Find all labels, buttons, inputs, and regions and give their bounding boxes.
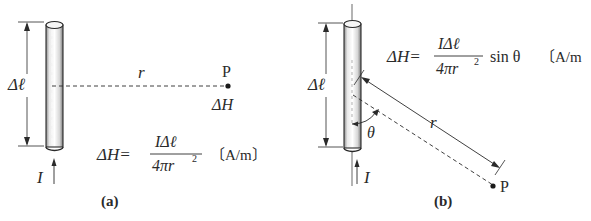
- formula-denominator-a: 4πr: [152, 157, 175, 174]
- angle-label-b: θ: [367, 124, 375, 141]
- distance-label-b: r: [430, 113, 437, 132]
- current-arrow-b: [355, 159, 360, 184]
- point-label-a: P: [222, 63, 231, 80]
- length-label-b: Δℓ: [307, 75, 325, 94]
- formula-exponent-b: 2: [474, 56, 479, 67]
- panel-b: Δℓ r θ P: [307, 4, 582, 210]
- formula-suffix-b: sin θ: [490, 48, 520, 65]
- point-p-a: [225, 83, 230, 88]
- formula-a: ΔH= IΔℓ 4πr 2 〔A/m〕: [96, 133, 267, 174]
- current-label-b: I: [363, 168, 371, 187]
- point-label-b: P: [500, 178, 509, 195]
- point-p-b: [490, 183, 495, 188]
- formula-unit-a: 〔A/m〕: [210, 147, 267, 163]
- formula-numerator-b: IΔℓ: [437, 35, 460, 52]
- distance-label-a: r: [138, 63, 145, 82]
- panel-a: Δℓ r P ΔH I ΔH= IΔℓ 4πr 2 〔A/m〕: [7, 22, 267, 211]
- current-arrow-a: [52, 158, 57, 184]
- formula-numerator-a: IΔℓ: [154, 133, 177, 150]
- formula-b: ΔH= IΔℓ 4πr 2 sin θ 〔A/m: [386, 35, 582, 77]
- length-label-a: Δℓ: [7, 75, 25, 94]
- formula-unit-b: 〔A/m: [540, 49, 582, 65]
- biot-savart-diagram: Δℓ r P ΔH I ΔH= IΔℓ 4πr 2 〔A/m〕: [0, 0, 591, 221]
- conductor-cylinder-b: [344, 21, 361, 152]
- current-label-a: I: [36, 168, 44, 187]
- field-label-a: ΔH: [211, 96, 234, 113]
- formula-denominator-b: 4πr: [436, 60, 459, 77]
- r-tick-end-b: [495, 160, 505, 175]
- formula-lhs-b: ΔH=: [386, 47, 421, 66]
- formula-lhs-a: ΔH=: [96, 145, 131, 164]
- formula-exponent-a: 2: [192, 153, 197, 164]
- caption-b: (b): [434, 193, 452, 210]
- caption-a: (a): [101, 193, 119, 210]
